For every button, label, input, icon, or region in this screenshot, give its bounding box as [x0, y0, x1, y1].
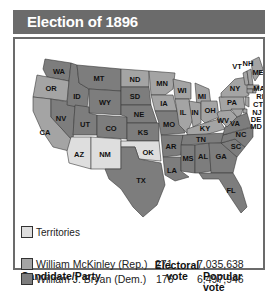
democrat-swatch [21, 273, 33, 285]
label-CA: CA [40, 128, 51, 137]
popular-vote: 7,035,638 [197, 258, 244, 270]
state-CT [247, 89, 253, 93]
map-title: Election of 1896 [27, 13, 138, 30]
label-ME: ME [252, 68, 263, 77]
state-FL [199, 173, 247, 213]
label-NM: NM [99, 150, 111, 159]
territory-swatch [21, 226, 33, 238]
label-MD: MD [250, 122, 262, 131]
label-OH: OH [204, 106, 215, 115]
label-MT: MT [94, 74, 105, 83]
label-MI: MI [198, 92, 206, 101]
label-LA: LA [167, 166, 178, 175]
label-NV: NV [56, 114, 66, 123]
label-CO: CO [105, 124, 116, 133]
label-MO: MO [163, 120, 175, 129]
label-GA: GA [215, 152, 227, 161]
electoral-vote: 271 [155, 258, 173, 270]
territories-label: Territories [36, 227, 80, 238]
label-WI: WI [177, 86, 186, 95]
label-NH: NH [243, 59, 254, 68]
label-MS: MS [182, 154, 193, 163]
label-AR: AR [166, 142, 177, 151]
title-bar: Election of 1896 [13, 10, 265, 34]
label-WY: WY [99, 98, 111, 107]
label-OR: OR [45, 84, 57, 93]
election-map-card: Election of 1896 [13, 10, 265, 268]
map-panel: WA OR CA NV ID MT WY UT CO AZ NM ND SD N… [13, 37, 265, 270]
label-ND: ND [130, 75, 141, 84]
label-TX: TX [136, 176, 146, 185]
candidate-name: William J. Bryan (Dem.) [36, 273, 146, 285]
label-IA: IA [160, 99, 168, 108]
table-row-bryan: William J. Bryan (Dem.) [21, 273, 146, 285]
legend-territories: Territories [21, 226, 80, 238]
label-TN: TN [196, 135, 206, 144]
label-KY: KY [200, 124, 210, 133]
label-VA: VA [230, 119, 240, 128]
label-OK: OK [142, 148, 154, 157]
label-KS: KS [138, 128, 148, 137]
label-FL: FL [226, 186, 236, 195]
label-IN: IN [191, 108, 199, 117]
label-NY: NY [230, 84, 240, 93]
candidate-name: William McKinley (Rep.) [36, 258, 147, 270]
label-SD: SD [130, 92, 141, 101]
popular-vote: 6,497,946 [197, 273, 244, 285]
label-WA: WA [53, 67, 66, 76]
label-MN: MN [156, 79, 168, 88]
state-NJ [245, 97, 249, 107]
label-VT: VT [232, 62, 242, 71]
label-IL: IL [180, 108, 187, 117]
republican-swatch [21, 258, 33, 270]
label-AZ: AZ [74, 150, 84, 159]
label-NE: NE [134, 110, 144, 119]
electoral-vote: 176 [156, 273, 174, 285]
state-DE [243, 109, 247, 113]
label-PA: PA [227, 98, 237, 107]
label-ID: ID [73, 92, 81, 101]
label-UT: UT [80, 120, 90, 129]
label-AL: AL [198, 152, 208, 161]
label-SC: SC [231, 142, 242, 151]
label-NC: NC [236, 130, 247, 139]
label-WV: WV [217, 116, 229, 125]
table-row-mckinley: William McKinley (Rep.) [21, 258, 147, 270]
